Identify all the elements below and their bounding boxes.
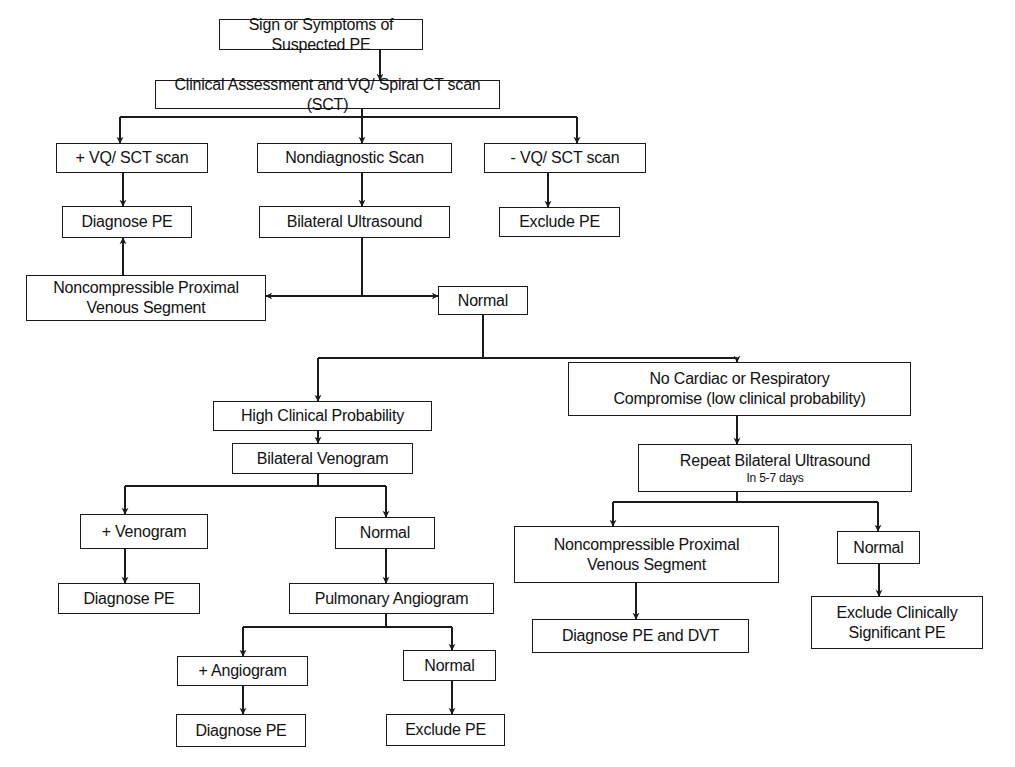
flowchart: Sign or Symptoms of Suspected PEClinical… (0, 0, 1015, 767)
node-label: - VQ/ SCT scan (511, 148, 620, 168)
flow-node-n17: Noncompressible ProximalVenous Segment (514, 526, 779, 583)
flow-node-n14: Repeat Bilateral UltrasoundIn 5-7 days (638, 444, 912, 492)
node-label: Bilateral Venogram (257, 449, 389, 469)
flow-node-n16: Normal (335, 517, 435, 549)
flow-node-n7: Bilateral Ultrasound (259, 206, 450, 238)
node-label: Exclude PE (519, 212, 600, 232)
flow-node-n8: Exclude PE (499, 207, 620, 237)
node-label: + VQ/ SCT scan (76, 148, 189, 168)
node-label: Significant PE (849, 623, 946, 643)
flow-node-n22: Exclude ClinicallySignificant PE (811, 596, 983, 649)
node-label: Normal (360, 523, 410, 543)
node-label: High Clinical Probability (241, 406, 404, 426)
flow-node-n10: Normal (438, 286, 528, 315)
node-sublabel: In 5-7 days (746, 471, 803, 485)
flow-node-n20: Pulmonary Angiogram (289, 583, 494, 614)
flow-node-n21: Diagnose PE and DVT (532, 619, 749, 653)
flow-node-n24: Normal (403, 650, 496, 681)
node-label: Normal (458, 291, 508, 311)
flow-node-n5: - VQ/ SCT scan (484, 143, 646, 173)
flow-node-n19: Diagnose PE (58, 583, 200, 614)
node-label: Normal (424, 656, 474, 676)
flow-node-n1: Sign or Symptoms of Suspected PE (219, 19, 423, 50)
node-label: Diagnose PE (195, 721, 286, 741)
node-label: Exclude Clinically (837, 603, 958, 623)
flow-node-n4: Nondiagnostic Scan (257, 143, 452, 173)
node-label: Bilateral Ultrasound (287, 212, 423, 232)
node-label: No Cardiac or Respiratory (650, 369, 830, 389)
node-label: + Angiogram (198, 661, 286, 681)
node-label: Pulmonary Angiogram (315, 589, 469, 609)
flow-node-n12: No Cardiac or RespiratoryCompromise (low… (568, 362, 911, 416)
flow-node-n13: Bilateral Venogram (232, 443, 413, 474)
node-label: Venous Segment (587, 555, 706, 575)
flow-node-n23: + Angiogram (177, 656, 308, 686)
node-label: Repeat Bilateral Ultrasound (680, 451, 870, 471)
node-label: Exclude PE (405, 720, 486, 740)
flow-node-n26: Exclude PE (386, 714, 505, 746)
node-label: Clinical Assessment and VQ/ Spiral CT sc… (156, 75, 499, 115)
flow-node-n6: Diagnose PE (62, 206, 192, 238)
flow-node-n15: + Venogram (80, 514, 208, 549)
flow-node-n11: High Clinical Probability (213, 401, 432, 431)
flow-node-n18: Normal (837, 531, 920, 564)
node-label: Compromise (low clinical probability) (613, 389, 865, 409)
node-label: Diagnose PE and DVT (562, 626, 719, 646)
flow-node-n3: + VQ/ SCT scan (56, 143, 208, 173)
node-label: Normal (853, 538, 903, 558)
node-label: + Venogram (102, 522, 187, 542)
node-label: Diagnose PE (81, 212, 172, 232)
node-label: Noncompressible Proximal (53, 278, 239, 298)
node-label: Nondiagnostic Scan (285, 148, 424, 168)
flow-node-n2: Clinical Assessment and VQ/ Spiral CT sc… (155, 80, 500, 109)
node-label: Sign or Symptoms of Suspected PE (220, 15, 422, 55)
flow-node-n9: Noncompressible ProximalVenous Segment (26, 275, 266, 321)
node-label: Diagnose PE (83, 589, 174, 609)
node-label: Noncompressible Proximal (554, 535, 740, 555)
node-label: Venous Segment (86, 298, 205, 318)
flow-node-n25: Diagnose PE (176, 714, 306, 747)
